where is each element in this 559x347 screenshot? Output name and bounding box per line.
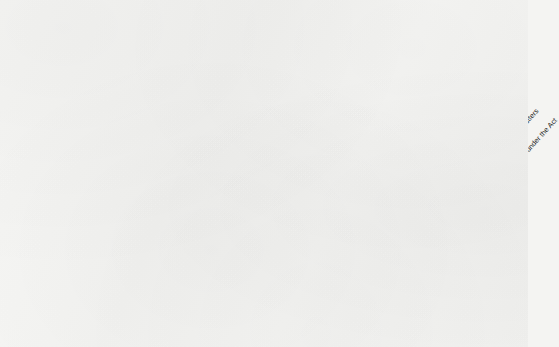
- x-axis-tick-mark: [207, 190, 208, 193]
- x-axis-tick-mark: [371, 190, 372, 193]
- x-axis-tick-mark: [126, 190, 127, 193]
- x-axis-tick-mark: [153, 190, 154, 193]
- x-axis-tick-mark: [452, 190, 453, 193]
- x-axis-tick-mark: [316, 190, 317, 193]
- x-axis-tick-mark: [506, 190, 507, 193]
- x-axis-tick-label: Deprivation of liberty: [265, 144, 316, 200]
- x-axis-tick-mark: [180, 190, 181, 193]
- x-axis-tick-mark: [99, 190, 100, 193]
- x-axis-tick-mark: [425, 190, 426, 193]
- x-axis-tick-mark: [72, 190, 73, 193]
- x-axis-tick-mark: [398, 190, 399, 193]
- x-axis-tick-mark: [343, 190, 344, 193]
- x-axis-tick-label: Other: [509, 180, 528, 200]
- x-axis-tick-mark: [262, 190, 263, 193]
- x-axis-tick-mark: [289, 190, 290, 193]
- x-axis-tick-mark: [479, 190, 480, 193]
- x-axis-tick-mark: [235, 190, 236, 193]
